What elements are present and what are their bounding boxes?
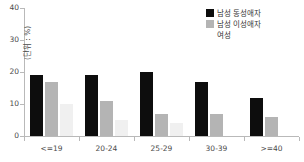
bar bbox=[155, 114, 169, 136]
legend-swatch-icon bbox=[206, 20, 214, 28]
y-axis-title: (단위 : %) bbox=[23, 26, 32, 60]
y-tick-label: 30 bbox=[9, 36, 19, 44]
y-tick-mark bbox=[20, 104, 24, 105]
x-tick-mark bbox=[299, 137, 300, 141]
legend-item-label: 남성 동성애자 bbox=[217, 9, 261, 18]
x-axis-line bbox=[24, 136, 299, 137]
bar bbox=[60, 104, 74, 136]
bar bbox=[100, 101, 114, 136]
y-tick-label: 0 bbox=[14, 132, 19, 140]
legend-item-label: 남성 이성애자 bbox=[217, 20, 261, 29]
legend-swatch-icon bbox=[206, 9, 214, 17]
y-tick-label: 10 bbox=[9, 100, 19, 108]
bar bbox=[210, 114, 224, 136]
x-tick-mark bbox=[24, 137, 25, 141]
y-tick-label: 40 bbox=[9, 4, 19, 12]
bar bbox=[115, 120, 129, 136]
x-axis-category-label: 20-24 bbox=[79, 144, 134, 153]
x-axis-category-label: 25-29 bbox=[134, 144, 189, 153]
x-tick-mark bbox=[244, 137, 245, 141]
bar bbox=[265, 117, 279, 136]
bar bbox=[250, 98, 264, 136]
legend-item-label: 여성 bbox=[217, 31, 231, 40]
bar bbox=[140, 72, 154, 136]
y-tick-label: 20 bbox=[9, 68, 19, 76]
bar bbox=[85, 75, 99, 136]
y-tick-mark bbox=[20, 40, 24, 41]
bar bbox=[45, 82, 59, 136]
x-tick-mark bbox=[134, 137, 135, 141]
x-axis-category-label: <=19 bbox=[24, 144, 79, 153]
y-tick-mark bbox=[20, 72, 24, 73]
legend-item: 남성 동성애자 bbox=[206, 8, 261, 18]
bar bbox=[170, 123, 184, 136]
bar-chart: (단위 : %) 010203040 <=1920-2425-2930-39>=… bbox=[0, 0, 304, 162]
x-axis-category-label: 30-39 bbox=[189, 144, 244, 153]
x-axis-category-label: >=40 bbox=[244, 144, 299, 153]
x-tick-mark bbox=[189, 137, 190, 141]
legend-item: 남성 이성애자 bbox=[206, 19, 261, 29]
y-tick-mark bbox=[20, 8, 24, 9]
bar bbox=[30, 75, 44, 136]
chart-legend: 남성 동성애자남성 이성애자여성 bbox=[206, 8, 261, 40]
legend-swatch-icon bbox=[206, 31, 214, 39]
bar bbox=[195, 82, 209, 136]
x-tick-mark bbox=[79, 137, 80, 141]
legend-item: 여성 bbox=[206, 30, 261, 40]
